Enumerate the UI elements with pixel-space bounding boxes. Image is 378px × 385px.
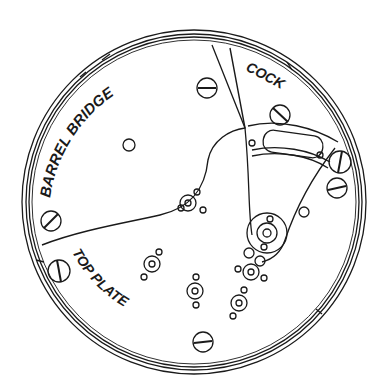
bridge-hole bbox=[123, 139, 135, 151]
barrel-bridge-outline bbox=[42, 48, 245, 245]
screw-icon bbox=[193, 332, 213, 352]
screw-icon bbox=[329, 151, 351, 173]
screw-icon bbox=[270, 105, 290, 125]
jewel-icon bbox=[187, 274, 203, 308]
balance-jewel-icon bbox=[247, 213, 287, 253]
screw-icon bbox=[48, 260, 70, 282]
label-barrel-bridge: BARREL BRIDGE bbox=[36, 83, 117, 199]
jewel-icon bbox=[141, 249, 162, 280]
jewel-icon bbox=[230, 287, 247, 319]
jewel-icon bbox=[235, 264, 267, 281]
label-top-plate: TOP PLATE bbox=[69, 246, 132, 310]
screw-icon bbox=[41, 211, 61, 231]
jewel-icon bbox=[178, 189, 206, 213]
jewels bbox=[141, 189, 309, 319]
label-cock: COCK bbox=[244, 59, 289, 93]
watch-movement-diagram: BARREL BRIDGE COCK TOP PLATE bbox=[0, 0, 378, 385]
screw-icon bbox=[197, 78, 217, 98]
case-ring bbox=[22, 30, 366, 374]
screw-icon bbox=[327, 178, 347, 198]
